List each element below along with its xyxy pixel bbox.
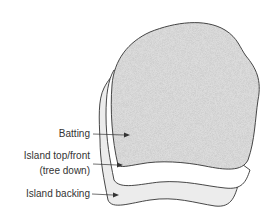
top-front-label-line2: (tree down) xyxy=(39,165,90,176)
batting-label: Batting xyxy=(59,128,90,139)
top-front-label-line1: Island top/front xyxy=(24,150,90,161)
backing-label: Island backing xyxy=(26,188,90,199)
batting-texture xyxy=(100,15,265,175)
